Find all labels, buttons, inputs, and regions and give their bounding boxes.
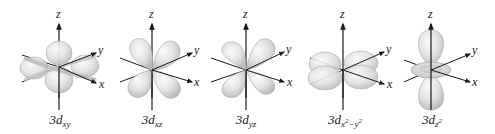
orbital-dx2-y2 [308, 24, 384, 110]
z-axis-label-dyz: z [243, 8, 248, 20]
orbital-dxy [20, 24, 99, 110]
d-orbital-figure: z y x z y x z y x z y x z y x 3dxy 3dxz … [0, 0, 495, 134]
z-axis-label-dxz: z [149, 8, 154, 20]
z-axis-label-dxy: z [56, 8, 61, 20]
y-axis-label-dx2y2: y [386, 43, 391, 55]
y-axis-label-dxz: y [194, 44, 199, 56]
label-3dz2: 3dz2 [422, 112, 442, 129]
label-3dxy: 3dxy [50, 112, 71, 129]
x-axis-label-dxz: x [194, 76, 199, 88]
x-axis-label-dxy: x [99, 78, 104, 90]
x-axis-label-dz2: x [472, 76, 477, 88]
z-axis-label-dx2y2: z [340, 8, 345, 20]
y-axis-label-dz2: y [472, 44, 477, 56]
z-axis-label-dz2: z [428, 8, 433, 20]
x-axis-label-dx2y2: x [387, 78, 392, 90]
orbital-dz2 [404, 24, 470, 110]
label-3dx2-y2: 3dx2−y2 [328, 112, 362, 129]
x-axis-label-dyz: x [287, 76, 292, 88]
orbital-dyz [211, 24, 284, 110]
label-3dxz: 3dxz [142, 112, 163, 129]
y-axis-label-dxy: y [98, 44, 103, 56]
orbital-dxz [120, 24, 192, 110]
label-3dyz: 3dyz [236, 112, 257, 129]
y-axis-label-dyz: y [286, 43, 291, 55]
